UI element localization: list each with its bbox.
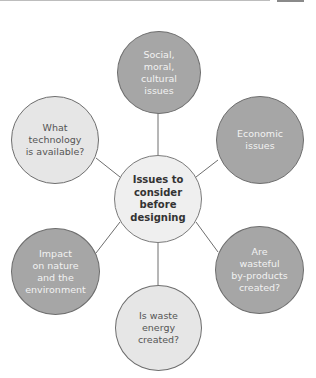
node-available-technology: What technology is available? — [11, 96, 99, 184]
connector-economic — [196, 160, 218, 177]
node-social-moral-cultural: Social, moral, cultural issues — [117, 31, 201, 114]
center-label: Issues to consider before designing — [130, 174, 185, 224]
connector-impact — [96, 222, 120, 253]
node-waste-energy: Is waste energy created? — [115, 285, 202, 371]
node-label: What technology is available? — [26, 122, 85, 158]
node-label: Are wasteful by-products created? — [231, 246, 287, 294]
node-wasteful-by-products: Are wasteful by-products created? — [215, 226, 304, 314]
node-label: Is waste energy created? — [138, 310, 179, 346]
node-label: Economic issues — [237, 128, 283, 152]
connector-technology — [96, 158, 120, 177]
connector-wasteful — [196, 222, 218, 252]
node-label: Social, moral, cultural issues — [141, 49, 177, 97]
node-economic-issues: Economic issues — [216, 96, 304, 184]
node-label: Impact on nature and the environment — [25, 248, 86, 296]
node-impact-on-nature: Impact on nature and the environment — [11, 228, 100, 315]
node-center-issues-to-consider: Issues to consider before designing — [114, 155, 202, 243]
